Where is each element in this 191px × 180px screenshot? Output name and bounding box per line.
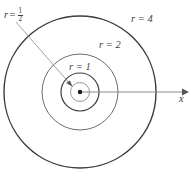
leader-arrowhead-r-half <box>66 81 72 87</box>
label-r-half-equals: = <box>10 9 16 20</box>
polar-circles-figure: r=12 r = 1 r = 2 r = 4 x <box>0 0 191 180</box>
label-r2: r = 2 <box>99 40 121 51</box>
polar-diagram-canvas <box>0 0 191 180</box>
label-r4: r = 4 <box>131 14 153 25</box>
label-r-half-var: r <box>4 9 8 20</box>
label-x-axis: x <box>179 94 184 105</box>
leader-line-r-half <box>16 22 72 86</box>
origin-dot <box>78 90 82 94</box>
label-r-half: r=12 <box>4 8 23 24</box>
fraction-denominator: 2 <box>18 16 24 24</box>
label-r1: r = 1 <box>69 62 91 73</box>
fraction-one-half: 12 <box>18 8 24 24</box>
